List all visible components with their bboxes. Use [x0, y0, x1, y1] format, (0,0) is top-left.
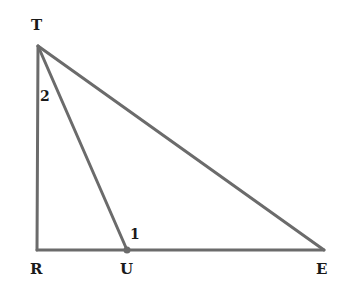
angle-label-2: 2 [40, 88, 50, 104]
point-U-dot [124, 247, 131, 254]
label-R: R [30, 260, 43, 278]
angle-label-1: 1 [130, 226, 140, 242]
label-E: E [316, 260, 327, 278]
triangle-diagram: T R U E 1 2 [0, 0, 350, 287]
segment-TR [37, 46, 38, 250]
label-U: U [120, 260, 133, 278]
label-T: T [31, 16, 43, 34]
